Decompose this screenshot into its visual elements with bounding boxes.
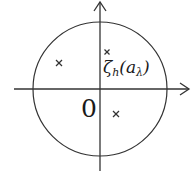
- argument-close: ): [143, 57, 150, 77]
- point-label: ζh(aλ): [103, 57, 150, 83]
- origin-label: 0: [81, 96, 97, 121]
- complex-plane-diagram: [0, 0, 193, 172]
- argument-open: (a: [119, 57, 136, 77]
- cross-marker-icon: [56, 60, 62, 66]
- cross-marker-icon: [113, 111, 119, 117]
- cross-marker-icon: [105, 50, 110, 55]
- zeta-symbol: ζ: [103, 57, 112, 77]
